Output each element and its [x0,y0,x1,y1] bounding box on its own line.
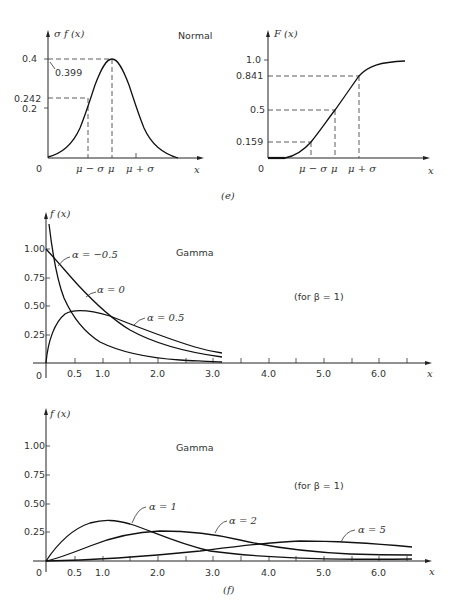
y-tick-1.0: 1.0 [246,54,261,65]
x-axis-arrow-icon [197,156,204,160]
x-tick-1.0: 1.0 [95,368,110,379]
gamma-top-chart: f (x) Gamma (for β = 1) 0 x 1.00 0.75 0.… [24,208,433,381]
chart-title: Gamma [176,442,214,453]
y-tick-0.50: 0.50 [24,498,45,509]
x-axis-label: x [429,566,435,577]
curve-label-alpha-1: α = 1 [149,501,177,512]
origin-label: 0 [258,163,264,174]
y-axis-arrow-icon [44,408,48,415]
peak-annotation: 0.399 [55,67,82,78]
y-axis-arrow-icon [266,30,270,37]
x-tick-6.0: 6.0 [371,368,386,379]
chart-title: Gamma [176,247,214,258]
x-tick-6.0: 6.0 [371,567,386,578]
x-tick-2.0: 2.0 [150,567,165,578]
curve-label-alpha-5: α = 5 [358,524,386,535]
x-tick-4.0: 4.0 [261,368,276,379]
y-axis-label: f (x) [49,208,70,219]
ref-value-0.242: 0.242 [14,93,41,104]
x-tick-3.0: 3.0 [205,368,220,379]
x-tick-mu: μ [108,163,115,174]
y-tick-0.25: 0.25 [24,329,45,340]
origin-label: 0 [36,370,42,381]
beta-note: (for β = 1) [294,291,344,302]
curve-label-alpha-0.5: α = 0.5 [147,312,184,323]
y-tick-0.25: 0.25 [24,526,45,537]
y-axis-label: f (x) [49,408,70,419]
normal-cdf-curve [268,61,405,158]
chart-title: Normal [178,30,212,41]
gamma-curve-alpha-0 [46,249,222,357]
y-axis-arrow-icon [44,212,48,219]
gamma-curve-alpha-5 [46,541,412,561]
y-tick-0.4: 0.4 [22,53,37,64]
x-tick-mu-plus-sigma: μ + σ [348,163,377,174]
normal-cdf-chart: F (x) 0 x 1.0 0.841 0.5 0.159 μ − σ μ μ … [236,28,434,176]
x-tick-5.0: 5.0 [316,567,331,578]
x-axis-arrow-icon [425,559,432,563]
x-tick-4.0: 4.0 [261,567,276,578]
curve-label-alpha-2: α = 2 [229,515,257,526]
gamma-curve-alpha-2 [46,531,412,561]
curve-label-alpha-neg0.5: α = −0.5 [72,249,118,260]
origin-label: 0 [36,163,42,174]
origin-label: 0 [36,567,42,578]
panel-label-e: (e) [221,190,235,201]
x-tick-0.5: 0.5 [67,567,82,578]
x-axis-label: x [194,164,200,175]
x-tick-2.0: 2.0 [150,368,165,379]
x-tick-3.0: 3.0 [205,567,220,578]
y-axis-label: σ f (x) [54,28,84,39]
y-tick-0.159: 0.159 [236,136,263,147]
y-tick-1.00: 1.00 [24,440,45,451]
y-tick-0.2: 0.2 [22,103,37,114]
y-tick-1.00: 1.00 [24,243,45,254]
x-tick-5.0: 5.0 [316,368,331,379]
gamma-curve-alpha-neg0.5 [49,224,222,362]
gamma-curve-alpha-0.5 [46,310,222,363]
y-tick-0.75: 0.75 [24,272,45,283]
curve-label-alpha-0: α = 0 [97,284,125,295]
y-tick-0.841: 0.841 [236,70,263,81]
y-axis-label: F (x) [273,28,298,39]
x-tick-1.0: 1.0 [95,567,110,578]
normal-pdf-chart: σ f (x) Normal 0 x 0.4 0.2 0.242 0.399 μ… [14,28,212,175]
beta-note: (for β = 1) [294,480,344,491]
x-tick-mu: μ [331,163,338,174]
x-tick-mu-minus-sigma: μ − σ [299,163,328,174]
y-tick-0.75: 0.75 [24,469,45,480]
y-tick-0.50: 0.50 [24,300,45,311]
y-axis-arrow-icon [46,30,50,37]
x-tick-mu-minus-sigma: μ − σ [76,163,105,174]
figure-canvas: σ f (x) Normal 0 x 0.4 0.2 0.242 0.399 μ… [0,0,456,609]
x-tick-0.5: 0.5 [67,368,82,379]
y-tick-0.5: 0.5 [250,104,265,115]
x-tick-mu-plus-sigma: μ + σ [126,163,155,174]
x-axis-arrow-icon [423,156,430,160]
x-axis-label: x [427,368,433,379]
x-axis-arrow-icon [425,361,432,365]
panel-label-f: (f) [223,584,235,595]
x-axis-label: x [428,165,434,176]
gamma-bottom-chart: f (x) Gamma (for β = 1) 0 x 1.00 0.75 0.… [24,408,435,578]
